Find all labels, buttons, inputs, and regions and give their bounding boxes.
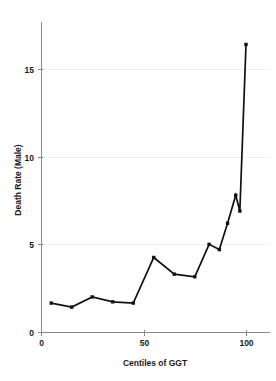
data-point-centile-65 — [173, 272, 176, 275]
data-point-centile-15 — [70, 305, 73, 308]
y-tick-label-5: 5 — [29, 240, 34, 250]
data-point-centile-87 — [218, 248, 221, 251]
data-point-centile-97 — [238, 209, 241, 212]
chart-container: 051015 050100 Centiles of GGT Death Rate… — [0, 0, 276, 381]
x-tick-label-0: 0 — [39, 338, 44, 348]
y-tick-label-10: 10 — [25, 153, 35, 163]
death-rate-line-chart: 051015 050100 Centiles of GGT Death Rate… — [0, 0, 276, 381]
data-point-centile-35 — [111, 300, 114, 303]
data-point-centile-75 — [193, 275, 196, 278]
data-point-centile-95 — [234, 194, 237, 197]
x-tick-label-100: 100 — [239, 338, 253, 348]
data-point-centile-5 — [50, 301, 53, 304]
data-point-centile-91 — [226, 222, 229, 225]
data-point-centile-82 — [207, 243, 210, 246]
data-point-centile-55 — [152, 256, 155, 259]
y-tick-label-15: 15 — [25, 65, 35, 75]
x-axis-title: Centiles of GGT — [123, 358, 188, 368]
x-tick-label-50: 50 — [140, 338, 150, 348]
data-point-centile-45 — [132, 301, 135, 304]
data-point-centile-25 — [91, 295, 94, 298]
y-tick-label-0: 0 — [29, 328, 34, 338]
y-axis-title: Death Rate (Male) — [13, 144, 23, 215]
data-point-centile-100 — [244, 43, 247, 46]
